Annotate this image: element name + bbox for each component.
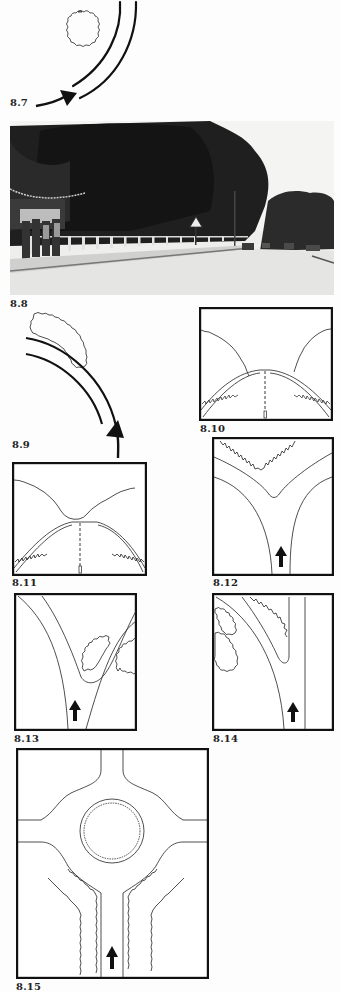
figure-8-10 [199, 307, 333, 421]
roundabout-diagram [16, 748, 209, 979]
caption-8-12: 8.12 [213, 577, 238, 588]
caption-8-13: 8.13 [14, 733, 39, 744]
caption-8-7: 8.7 [10, 97, 28, 108]
figure-8-13 [14, 593, 137, 731]
y-junction-trees-in-fork-diagram [212, 437, 334, 576]
caption-8-11: 8.11 [12, 577, 37, 588]
perspective-road-trees-diagram [199, 307, 333, 421]
figure-8-12 [212, 437, 334, 576]
y-junction-trees-right-diagram [14, 593, 137, 731]
junction-trees-left-diagram [212, 593, 334, 731]
figure-8-15 [16, 748, 209, 979]
curved-road-tree-clump-diagram [0, 0, 170, 112]
caption-8-14: 8.14 [213, 733, 238, 744]
caption-8-15: 8.15 [16, 981, 41, 992]
figure-8-9 [20, 308, 145, 458]
figure-8-8-photo [10, 121, 334, 295]
figure-8-11 [12, 462, 147, 576]
figure-8-7 [0, 0, 170, 112]
figure-8-14 [212, 593, 334, 731]
caption-8-10: 8.10 [200, 423, 225, 434]
street-scene-photo [10, 121, 334, 295]
curve-with-tree-belt-diagram [20, 308, 145, 458]
caption-8-9: 8.9 [12, 439, 30, 450]
perspective-road-crossing-trees-diagram [12, 462, 147, 576]
